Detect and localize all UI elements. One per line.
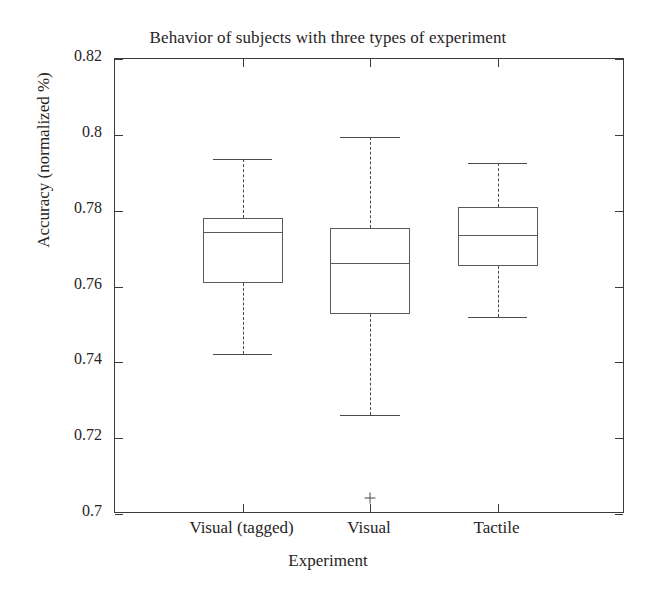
x-axis-tick-label: Visual (tagged) <box>189 518 293 538</box>
x-axis-tick-label: Visual <box>347 518 390 538</box>
whisker-cap-upper <box>340 137 399 138</box>
x-axis-tick <box>498 59 499 67</box>
x-axis-tick <box>243 504 244 512</box>
whisker-cap-lower <box>213 354 272 355</box>
box-iqr <box>330 228 410 314</box>
y-axis-tick <box>115 211 123 212</box>
whisker-upper <box>370 137 371 228</box>
whisker-cap-upper <box>468 163 527 164</box>
y-axis-tick-label: 0.78 <box>40 199 102 217</box>
y-axis-tick-label: 0.82 <box>40 47 102 65</box>
x-axis-tick <box>243 59 244 67</box>
whisker-cap-lower <box>468 317 527 318</box>
y-axis-label: Accuracy (normalized %) <box>34 50 54 270</box>
whisker-lower <box>498 266 499 317</box>
whisker-upper <box>498 163 499 207</box>
box-plot-figure: Behavior of subjects with three types of… <box>0 0 656 589</box>
y-axis-tick <box>115 362 123 363</box>
y-axis-tick-label: 0.74 <box>40 350 102 368</box>
y-axis-tick <box>615 59 623 60</box>
x-axis-tick <box>498 504 499 512</box>
plot-area <box>114 58 624 513</box>
box-iqr <box>203 218 283 283</box>
y-axis-tick <box>615 514 623 515</box>
whisker-lower <box>243 283 244 354</box>
box-iqr <box>458 207 538 266</box>
y-axis-tick <box>615 211 623 212</box>
y-axis-tick <box>115 438 123 439</box>
x-axis-tick <box>370 504 371 512</box>
y-axis-tick <box>115 514 123 515</box>
outlier-plus-icon <box>365 493 376 504</box>
y-axis-tick-label: 0.72 <box>40 426 102 444</box>
whisker-upper <box>243 159 244 218</box>
y-axis-tick <box>615 438 623 439</box>
y-axis-tick <box>115 287 123 288</box>
whisker-cap-lower <box>340 415 399 416</box>
x-axis-label: Experiment <box>0 551 656 571</box>
y-axis-tick-label: 0.76 <box>40 275 102 293</box>
y-axis-tick <box>615 362 623 363</box>
y-axis-tick-label: 0.7 <box>40 502 102 520</box>
whisker-lower <box>370 314 371 415</box>
y-axis-tick-label: 0.8 <box>40 123 102 141</box>
median-line <box>330 263 410 264</box>
y-axis-tick <box>115 59 123 60</box>
median-line <box>458 235 538 236</box>
chart-title: Behavior of subjects with three types of… <box>0 28 656 48</box>
x-axis-tick-label: Tactile <box>473 518 519 538</box>
y-axis-tick <box>115 135 123 136</box>
y-axis-tick <box>615 287 623 288</box>
y-axis-tick <box>615 135 623 136</box>
x-axis-tick <box>370 59 371 67</box>
whisker-cap-upper <box>213 159 272 160</box>
median-line <box>203 232 283 233</box>
